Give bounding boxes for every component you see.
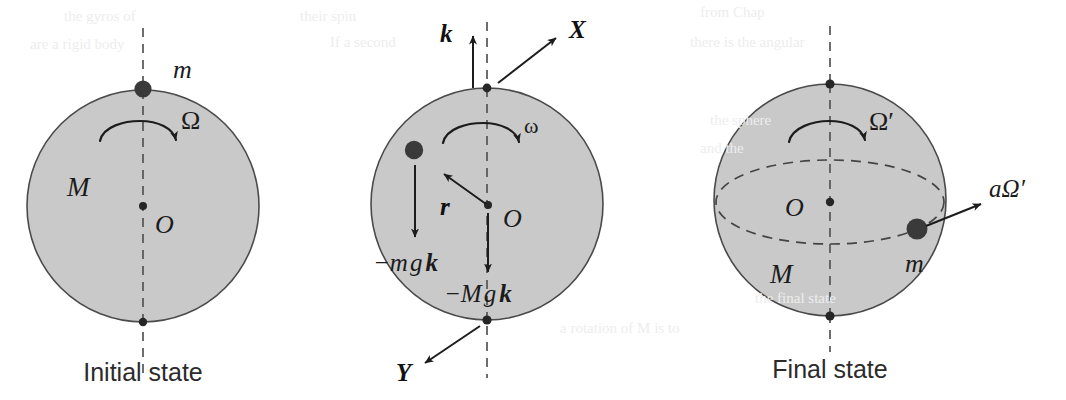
mass-label-final: m — [905, 249, 924, 278]
svg-text:−Mgk: −Mgk — [444, 280, 512, 307]
Y-axis-vector-arrow — [425, 326, 480, 363]
X-axis-vector-label: X — [568, 16, 587, 43]
south-pole-dot-final — [825, 311, 834, 320]
caption-initial-state: Initial state — [83, 358, 203, 386]
k-unit-vector-label: k — [440, 20, 453, 47]
sphere-weight-k: k — [499, 280, 512, 307]
body-label-initial: M — [66, 172, 91, 202]
point-mass-weight-label: −mgk — [373, 249, 438, 276]
south-pole-dot-forces — [482, 315, 491, 324]
point-mass-forces — [405, 141, 423, 159]
physics-figure: the gyros of their spin from Chap are a … — [0, 0, 1066, 400]
Y-axis-vector-label: Y — [396, 359, 414, 386]
position-vector-label: r — [440, 193, 450, 220]
center-label-final: O — [785, 193, 804, 222]
point-mass-weight-g: g — [410, 249, 423, 276]
X-axis-vector-arrow — [498, 38, 556, 83]
point-mass-weight-k: k — [425, 249, 438, 276]
spin-label-initial: Ω — [181, 106, 200, 135]
center-label-initial: O — [155, 210, 174, 239]
north-pole-dot-final — [825, 79, 834, 88]
tangential-velocity-label: aΩ′ — [989, 175, 1026, 202]
point-mass-weight-prefix: −m — [373, 249, 408, 276]
svg-text:−mgk: −mgk — [373, 249, 438, 276]
sphere-weight-prefix: −M — [444, 280, 483, 307]
center-dot-initial — [139, 202, 147, 210]
panel-final-state: Ω′ aΩ′ O M m Final state — [714, 26, 1026, 383]
body-label-final: M — [769, 259, 794, 289]
spin-label-forces: ω — [524, 113, 538, 138]
north-pole-dot-initial — [139, 318, 147, 326]
panel-forces: k X Y ω r O −mgk — [371, 16, 603, 386]
caption-final-state: Final state — [772, 355, 887, 383]
panel-initial-state: Ω m M O Initial state — [27, 28, 259, 386]
mass-label-initial: m — [173, 55, 192, 84]
sphere-weight-g: g — [484, 280, 497, 307]
north-pole-dot-forces — [483, 84, 492, 93]
center-dot-final — [826, 198, 834, 206]
spin-label-final: Ω′ — [869, 107, 894, 136]
point-mass-final — [907, 219, 928, 240]
sphere-weight-label: −Mgk — [444, 280, 512, 307]
center-label-forces: O — [503, 204, 522, 233]
point-mass-initial — [134, 80, 151, 97]
figure-canvas: Ω m M O Initial state k X Y — [0, 0, 1066, 400]
